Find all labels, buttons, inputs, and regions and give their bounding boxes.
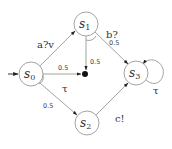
automaton-diagram: s0 s1 s2 s3 a?v b? c! τ τ 0.5 0.5 0.5 0.… xyxy=(0,0,172,149)
prob-s1-s3: 0.5 xyxy=(109,39,119,47)
state-s3: s3 xyxy=(124,61,148,85)
state-s2: s2 xyxy=(75,111,99,135)
label-tau-s0: τ xyxy=(62,83,68,94)
prob-s0-s2: 0.5 xyxy=(43,102,53,110)
state-s1: s1 xyxy=(74,12,98,36)
distribution-node xyxy=(82,71,88,77)
b-arc-s1 xyxy=(86,36,96,41)
prob-s1-dist: 0.5 xyxy=(90,58,100,66)
prob-s0-dist: 0.5 xyxy=(58,64,68,72)
state-s0: s0 xyxy=(19,62,43,86)
edge-s2-s3 xyxy=(96,83,128,115)
label-c-ex: c! xyxy=(115,113,125,124)
edge-s0-s2 xyxy=(40,83,77,115)
label-a-v: a?v xyxy=(37,39,54,50)
label-tau-s3: τ xyxy=(153,85,159,96)
